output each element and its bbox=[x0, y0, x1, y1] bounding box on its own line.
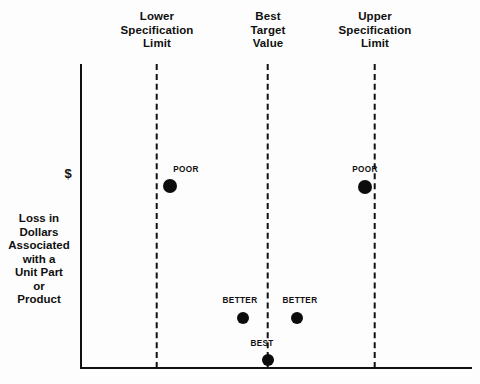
spec-line-upper bbox=[374, 64, 376, 368]
loss-axis bbox=[80, 64, 82, 369]
point-label-better-left: BETTER bbox=[223, 296, 258, 305]
point-label-best: BEST bbox=[250, 339, 273, 348]
spec-line-lower bbox=[156, 64, 158, 368]
best-target-value-label: Best Target Value bbox=[223, 10, 313, 51]
upper-specification-limit-label: Upper Specification Limit bbox=[315, 10, 435, 51]
data-point-poor-lower bbox=[163, 179, 177, 193]
data-point-poor-upper bbox=[358, 180, 372, 194]
taguchi-loss-function-figure: Lower Specification Limit Best Target Va… bbox=[0, 0, 480, 384]
point-label-poor-upper: POOR bbox=[352, 165, 378, 174]
point-label-poor-lower: POOR bbox=[173, 165, 199, 174]
data-point-better-left bbox=[237, 312, 249, 324]
tolerance-axis bbox=[80, 367, 472, 369]
lower-specification-limit-label: Lower Specification Limit bbox=[97, 10, 217, 51]
data-point-best bbox=[262, 354, 274, 366]
data-point-better-right bbox=[291, 312, 303, 324]
spec-line-target bbox=[267, 64, 269, 368]
loss-axis-caption: Loss in Dollars Associated with a Unit P… bbox=[0, 212, 78, 307]
point-label-better-right: BETTER bbox=[283, 296, 318, 305]
dollar-sign-label: $ bbox=[64, 166, 71, 181]
